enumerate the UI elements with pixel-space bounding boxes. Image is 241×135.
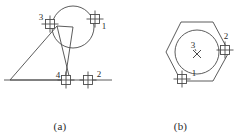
radius-line bbox=[57, 26, 73, 27]
drawing-sheet: 1342 (a) 312 (b) bbox=[0, 0, 241, 135]
weld-point-marker-1[interactable] bbox=[174, 71, 191, 88]
triangle-outline bbox=[10, 26, 70, 80]
marker-label-2: 2 bbox=[97, 69, 102, 79]
marker-label-1: 1 bbox=[102, 21, 107, 31]
figure-b-drawing: 312 bbox=[120, 0, 241, 110]
figure-a-drawing: 1342 bbox=[0, 0, 120, 110]
center-label-3: 3 bbox=[191, 40, 196, 50]
figure-a-caption: (a) bbox=[0, 120, 120, 132]
weld-point-marker-3[interactable] bbox=[42, 16, 59, 33]
figure-b-panel: 312 (b) bbox=[120, 0, 241, 135]
inner-circle-outline bbox=[175, 30, 219, 74]
marker-label-1: 1 bbox=[192, 68, 197, 78]
weld-point-marker-2[interactable] bbox=[80, 72, 97, 89]
marker-label-4: 4 bbox=[56, 70, 61, 80]
marker-label-2: 2 bbox=[224, 31, 229, 41]
figure-a-panel: 1342 (a) bbox=[0, 0, 120, 135]
figure-b-caption: (b) bbox=[120, 120, 241, 132]
marker-label-3: 3 bbox=[39, 12, 44, 22]
center-cross-icon bbox=[193, 50, 201, 58]
